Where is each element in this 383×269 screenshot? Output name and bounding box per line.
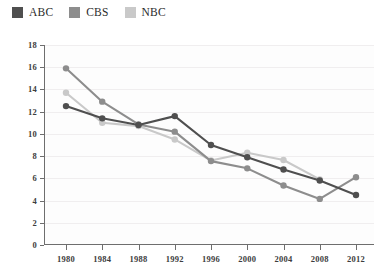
x-tick-mark xyxy=(284,245,285,250)
x-tick-mark xyxy=(320,245,321,250)
data-point[interactable] xyxy=(280,157,286,163)
x-tick-label: 1992 xyxy=(166,254,184,264)
x-tick-mark xyxy=(102,245,103,250)
series-line xyxy=(66,93,320,180)
data-point[interactable] xyxy=(353,174,359,180)
x-tick-mark xyxy=(175,245,176,250)
y-tick-label: 10 xyxy=(28,129,37,139)
y-tick-mark xyxy=(40,245,44,246)
data-point[interactable] xyxy=(172,136,178,142)
legend-item-abc[interactable]: ABC xyxy=(12,7,53,18)
data-point[interactable] xyxy=(353,192,359,198)
x-tick-mark xyxy=(211,245,212,250)
data-point[interactable] xyxy=(317,196,323,202)
series-cbs xyxy=(63,65,359,202)
x-tick-mark xyxy=(247,245,248,250)
x-tick-label: 1988 xyxy=(129,254,147,264)
data-point[interactable] xyxy=(99,115,105,121)
series-layer xyxy=(44,45,374,245)
data-point[interactable] xyxy=(244,165,250,171)
data-point[interactable] xyxy=(280,182,286,188)
series-abc xyxy=(63,103,359,198)
chart-figure: ABC CBS NBC 181614121086420 198019841988… xyxy=(0,0,383,269)
legend-label-cbs: CBS xyxy=(86,7,108,18)
data-point[interactable] xyxy=(135,122,141,128)
y-tick-label: 14 xyxy=(28,84,37,94)
x-tick-label: 1984 xyxy=(93,254,111,264)
plot-area: 181614121086420 198019841988199219962000… xyxy=(44,45,374,245)
data-point[interactable] xyxy=(244,154,250,160)
data-point[interactable] xyxy=(317,177,323,183)
legend-item-cbs[interactable]: CBS xyxy=(69,7,108,18)
data-point[interactable] xyxy=(63,90,69,96)
y-tick-label: 4 xyxy=(32,196,37,206)
y-tick-label: 12 xyxy=(28,107,37,117)
y-tick-label: 2 xyxy=(32,218,37,228)
y-tick-label: 8 xyxy=(32,151,37,161)
y-tick-label: 6 xyxy=(32,173,37,183)
y-tick-label: 16 xyxy=(28,62,37,72)
data-point[interactable] xyxy=(208,142,214,148)
legend-label-nbc: NBC xyxy=(142,7,166,18)
legend-item-nbc[interactable]: NBC xyxy=(125,7,166,18)
data-point[interactable] xyxy=(172,113,178,119)
data-point[interactable] xyxy=(172,128,178,134)
data-point[interactable] xyxy=(208,158,214,164)
legend-swatch-nbc-icon xyxy=(125,7,136,18)
series-line xyxy=(66,106,356,195)
x-tick-mark xyxy=(66,245,67,250)
data-point[interactable] xyxy=(63,65,69,71)
y-tick-label: 18 xyxy=(28,40,37,50)
x-tick-label: 2004 xyxy=(274,254,292,264)
data-point[interactable] xyxy=(280,166,286,172)
data-point[interactable] xyxy=(99,98,105,104)
legend-swatch-abc-icon xyxy=(12,7,23,18)
y-tick-label: 0 xyxy=(32,240,37,250)
data-point[interactable] xyxy=(63,103,69,109)
x-tick-mark xyxy=(356,245,357,250)
x-tick-label: 1996 xyxy=(202,254,220,264)
chart-legend: ABC CBS NBC xyxy=(12,4,182,20)
x-tick-label: 2012 xyxy=(347,254,365,264)
x-tick-mark xyxy=(139,245,140,250)
legend-swatch-cbs-icon xyxy=(69,7,80,18)
x-tick-label: 2000 xyxy=(238,254,256,264)
legend-label-abc: ABC xyxy=(29,7,53,18)
x-tick-label: 1980 xyxy=(57,254,75,264)
x-tick-label: 2008 xyxy=(311,254,329,264)
